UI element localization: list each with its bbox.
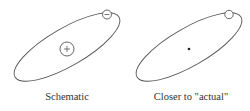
electron-circle-icon (225, 10, 233, 18)
nucleus-plus-icon (60, 42, 74, 56)
panel-schematic (6, 1, 129, 94)
nucleus-dot-icon (188, 48, 191, 51)
panel-actual (128, 1, 250, 94)
caption-actual: Closer to "actual" (154, 91, 228, 102)
caption-schematic: Schematic (45, 91, 89, 102)
electron-minus-icon (103, 10, 112, 19)
